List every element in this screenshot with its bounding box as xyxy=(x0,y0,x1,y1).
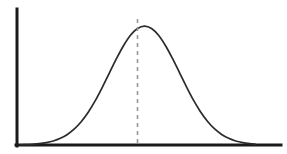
normal-distribution-chart xyxy=(0,0,287,154)
bell-curve-figure xyxy=(0,0,287,154)
